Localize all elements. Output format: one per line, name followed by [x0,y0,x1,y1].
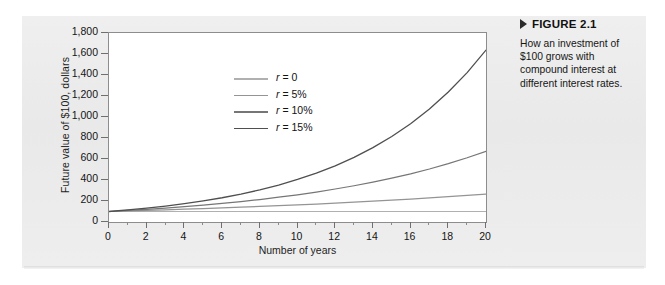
legend-item: r = 15% [234,121,364,135]
series-line [109,151,486,211]
x-tick-label: 14 [366,230,378,242]
legend-item: r = 10% [234,104,364,118]
x-tick-major [297,222,298,228]
y-tick-mark [101,116,108,117]
x-tick-minor [127,222,128,225]
y-tick-label: 1,800 [72,25,98,37]
x-tick-minor [165,222,166,225]
x-tick-minor [466,222,467,225]
x-tick-major [108,222,109,228]
x-tick-major [221,222,222,228]
y-tick-mark [101,32,108,33]
x-axis-title: Number of years [108,244,487,256]
legend-item: r = 5% [234,88,364,102]
x-tick-label: 8 [256,230,262,242]
y-tick-label: 400 [80,172,98,184]
figure-caption-box: FIGURE 2.1 How an investment of $100 gro… [520,18,632,90]
y-tick-mark [101,221,108,222]
x-tick-major [447,222,448,228]
y-tick-mark [101,74,108,75]
y-tick-mark [101,95,108,96]
x-tick-minor [278,222,279,225]
y-tick-label: 800 [80,130,98,142]
x-tick-major [485,222,486,228]
series-line [109,194,486,211]
y-tick-label: 1,200 [72,88,98,100]
y-tick-mark [101,137,108,138]
x-tick-major [259,222,260,228]
x-tick-major [146,222,147,228]
y-tick-label: 0 [92,214,98,226]
y-tick-label: 200 [80,193,98,205]
legend-label: r = 5% [276,88,307,100]
x-tick-major [372,222,373,228]
figure-caption-header: FIGURE 2.1 [520,18,632,30]
x-tick-label: 20 [479,230,491,242]
x-tick-minor [391,222,392,225]
x-tick-major [334,222,335,228]
x-tick-label: 10 [291,230,303,242]
y-tick-label: 1,600 [72,46,98,58]
legend-label: r = 0 [276,71,297,83]
x-tick-minor [315,222,316,225]
legend-swatch [234,78,268,80]
x-tick-label: 2 [143,230,149,242]
x-tick-label: 18 [441,230,453,242]
x-tick-major [410,222,411,228]
x-tick-minor [428,222,429,225]
x-tick-label: 16 [404,230,416,242]
x-tick-label: 12 [328,230,340,242]
legend-swatch [234,128,268,130]
x-tick-label: 4 [180,230,186,242]
triangle-right-icon [520,19,527,29]
y-tick-mark [101,158,108,159]
x-tick-minor [353,222,354,225]
x-tick-major [183,222,184,228]
y-tick-mark [101,53,108,54]
y-tick-label: 1,400 [72,67,98,79]
legend-item: r = 0 [234,71,364,85]
x-tick-minor [202,222,203,225]
legend-label: r = 10% [276,104,312,116]
y-axis-ticks: 02004006008001,0001,2001,4001,6001,800 [22,32,108,221]
y-tick-label: 600 [80,151,98,163]
y-tick-label: 1,000 [72,109,98,121]
x-tick-minor [240,222,241,225]
figure-caption-text: How an investment of $100 grows with com… [520,37,632,90]
y-tick-mark [101,200,108,201]
x-tick-label: 0 [105,230,111,242]
legend-swatch [234,111,268,113]
figure-container: Future value of $100, dollars 0200400600… [0,0,665,285]
chart-legend: r = 0r = 5%r = 10%r = 15% [234,71,364,137]
y-tick-mark [101,179,108,180]
plot-frame: r = 0r = 5%r = 10%r = 15% [108,32,487,223]
figure-number: FIGURE 2.1 [532,18,597,30]
legend-label: r = 15% [276,121,312,133]
x-tick-label: 6 [218,230,224,242]
legend-swatch [234,95,268,97]
chart-area: Future value of $100, dollars 0200400600… [22,16,502,268]
